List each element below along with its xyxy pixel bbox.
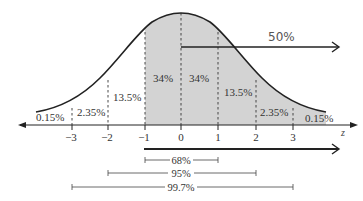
label-left-tail: 0.15% bbox=[36, 111, 64, 123]
label-m2-m1: 13.5% bbox=[113, 91, 141, 103]
fifty-percent-label: 50% bbox=[268, 30, 295, 44]
label-right-tail: 0.15% bbox=[305, 112, 333, 124]
label-m1-0: 34% bbox=[153, 72, 173, 84]
tick-label-0: 0 bbox=[178, 131, 184, 143]
axis-label-z: z bbox=[340, 127, 345, 138]
tick-label-m2: −2 bbox=[101, 131, 113, 143]
range-label-95: 95% bbox=[171, 168, 191, 179]
axis-arrow-right-icon bbox=[350, 122, 358, 128]
range-label-997: 99.7% bbox=[167, 182, 194, 193]
label-2-3: 2.35% bbox=[260, 106, 288, 118]
tick-label-3: 3 bbox=[290, 131, 296, 143]
tick-label-m1: −1 bbox=[138, 131, 150, 143]
tick-label-m3: −3 bbox=[65, 131, 77, 143]
label-1-2: 13.5% bbox=[224, 86, 252, 98]
range-label-68: 68% bbox=[171, 155, 191, 166]
label-m3-m2: 2.35% bbox=[77, 106, 105, 118]
shaded-area bbox=[145, 0, 326, 125]
tick-label-1: 1 bbox=[215, 131, 221, 143]
tick-label-2: 2 bbox=[253, 131, 259, 143]
normal-distribution-chart: 0.15% 2.35% 13.5% 34% 34% 13.5% 2.35% 0.… bbox=[0, 0, 363, 201]
axis-ticks bbox=[72, 125, 293, 130]
label-0-1: 34% bbox=[189, 72, 209, 84]
axis-arrow-left-icon bbox=[18, 122, 26, 128]
